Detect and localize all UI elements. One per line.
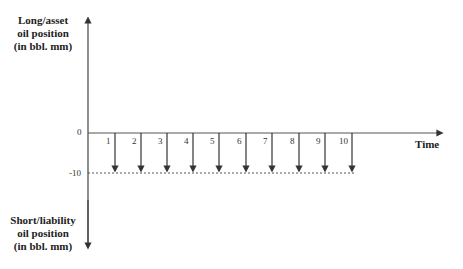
y-axis-top-label: Long/asset oil position (in bbl. mm): [0, 14, 88, 53]
label-line: Short/liability: [0, 214, 88, 227]
label-line: oil position: [0, 27, 88, 40]
label-line: oil position: [0, 227, 88, 240]
y-axis-bottom-label: Short/liability oil position (in bbl. mm…: [0, 214, 88, 253]
x-axis-label: Time: [415, 138, 439, 150]
period-label: 3: [158, 136, 163, 146]
period-label: 7: [263, 136, 268, 146]
period-label: 10: [339, 136, 348, 146]
period-label: 4: [184, 136, 189, 146]
period-label: 5: [210, 136, 215, 146]
label-line: (in bbl. mm): [0, 40, 88, 53]
y-tick-minus-10: -10: [69, 168, 81, 178]
period-label: 9: [316, 136, 321, 146]
period-label: 6: [237, 136, 242, 146]
label-line: Long/asset: [0, 14, 88, 27]
period-label: 1: [106, 136, 111, 146]
period-label: 8: [290, 136, 295, 146]
period-label: 2: [132, 136, 137, 146]
y-tick-0: 0: [77, 127, 82, 137]
label-line: (in bbl. mm): [0, 240, 88, 253]
